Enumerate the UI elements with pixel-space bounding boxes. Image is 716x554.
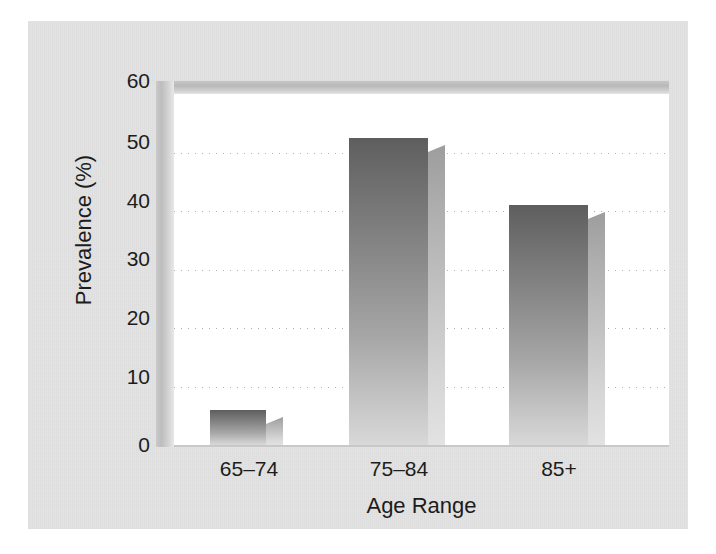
y-tick-label-10: 10: [104, 366, 150, 387]
x-axis-tick-labels: 65–74 75–84 85+: [174, 458, 669, 484]
y-tick-label-0: 0: [104, 434, 150, 455]
x-axis-baseline: [174, 445, 669, 447]
y-axis-tick-labels: 60 50 40 30 20 10 0: [98, 81, 150, 447]
bar-65-74[interactable]: [210, 410, 283, 445]
x-tick-label-75-84: 75–84: [334, 458, 464, 479]
bar-65-74-face: [210, 410, 266, 445]
bar-75-84-side: [428, 145, 445, 445]
plot-frame: [156, 81, 669, 447]
y-axis-title-wrapper: Prevalence (%): [70, 90, 98, 370]
x-axis-title: Age Range: [174, 493, 669, 519]
plot-area: [174, 94, 669, 445]
figure-canvas: Prevalence (%) 60 50 40 30 20 10 0: [0, 0, 716, 554]
bar-65-74-side: [266, 417, 283, 445]
bar-85-plus-side: [588, 212, 605, 445]
bar-75-84-face: [349, 138, 428, 445]
frame-left-bevel: [156, 81, 174, 447]
bar-85-plus[interactable]: [509, 205, 605, 445]
frame-top-bevel: [156, 81, 669, 94]
chart-panel: Prevalence (%) 60 50 40 30 20 10 0: [28, 21, 688, 529]
y-tick-label-30: 30: [104, 248, 150, 269]
y-tick-label-20: 20: [104, 307, 150, 328]
y-tick-label-60: 60: [104, 70, 150, 91]
bar-85-plus-face: [509, 205, 588, 445]
y-tick-label-40: 40: [104, 190, 150, 211]
x-tick-label-65-74: 65–74: [184, 458, 314, 479]
bar-75-84[interactable]: [349, 138, 445, 445]
x-tick-label-85-plus: 85+: [494, 458, 624, 479]
y-axis-title: Prevalence (%): [70, 90, 98, 370]
y-tick-label-50: 50: [104, 131, 150, 152]
